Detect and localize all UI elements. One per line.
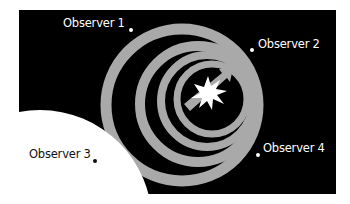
observer-3-dot <box>93 159 97 163</box>
observer-1-dot <box>129 28 133 32</box>
observer-1-label: Observer 1 <box>63 17 125 30</box>
observer-3-label: Observer 3 <box>29 148 91 161</box>
doppler-diagram <box>0 0 350 204</box>
observer-2-dot <box>250 48 254 52</box>
observer-2-label: Observer 2 <box>258 38 320 51</box>
observer-4-label: Observer 4 <box>263 142 325 155</box>
observer-4-dot <box>256 153 260 157</box>
